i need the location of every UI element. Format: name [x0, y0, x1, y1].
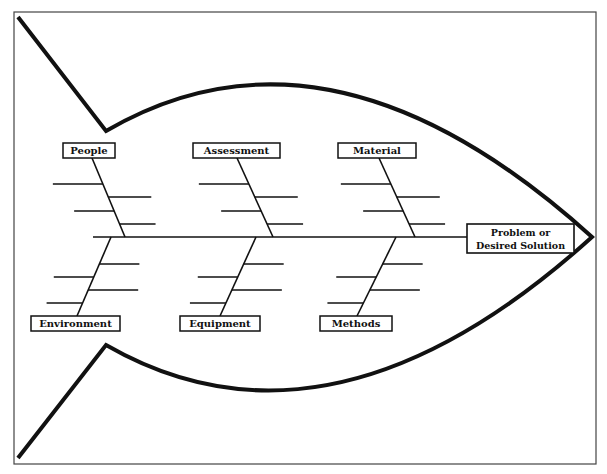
cause-label: Environment [39, 318, 112, 329]
cause-label: Assessment [203, 145, 270, 156]
cause-equipment: Equipment [180, 237, 284, 331]
cause-label: Methods [332, 318, 381, 329]
problem-line-2: Desired Solution [476, 240, 565, 251]
cause-label: Equipment [189, 318, 251, 329]
cause-label: Material [353, 145, 401, 156]
cause-environment: Environment [31, 237, 139, 331]
problem-box: Problem or Desired Solution [467, 224, 574, 253]
problem-line-1: Problem or [491, 227, 551, 238]
cause-label: People [70, 145, 107, 156]
cause-assessment: Assessment [193, 143, 303, 237]
fishbone-diagram: Problem or Desired Solution PeopleAssess… [0, 0, 607, 474]
cause-methods: Methods [320, 237, 423, 331]
cause-people: People [53, 143, 156, 237]
cause-material: Material [338, 143, 445, 237]
